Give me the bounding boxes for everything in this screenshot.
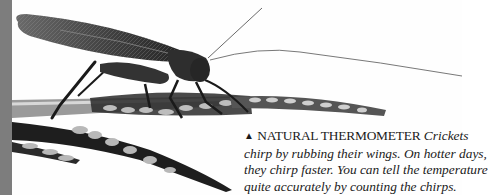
- caption-text: Crickets: [424, 128, 469, 143]
- caption-heading: NATURAL THERMOMETER: [257, 128, 420, 143]
- caption-line-4: quite accurately by counting the chirps.: [244, 179, 462, 196]
- photo-caption: ▲ NATURAL THERMOMETER Crickets chirp by …: [244, 128, 462, 195]
- caption-line-1: ▲ NATURAL THERMOMETER Crickets: [244, 128, 462, 146]
- caption-line-2: chirp by rubbing their wings. On hotter …: [244, 146, 462, 163]
- triangle-marker-icon: ▲: [244, 130, 254, 141]
- caption-line-3: they chirp faster. You can tell the temp…: [244, 162, 462, 179]
